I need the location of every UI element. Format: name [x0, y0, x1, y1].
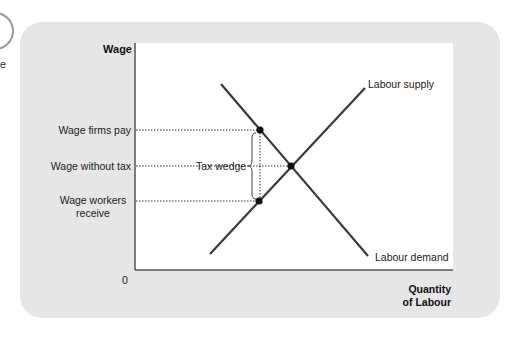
y-axis-label: Wage — [103, 43, 132, 56]
label-wage-firms-pay: Wage firms pay — [58, 124, 131, 137]
label-line-2: receive — [53, 207, 133, 220]
point-wage-firms-pay — [256, 126, 263, 133]
x-axis-label-line-1: Quantity — [403, 283, 451, 296]
point-wage-workers-receive — [255, 197, 262, 204]
x-axis-label-line-2: of Labour — [403, 296, 451, 309]
label-line-1: Wage workers — [53, 194, 133, 207]
x-axis-label: Quantity of Labour — [403, 283, 451, 309]
label-wage-without-tax: Wage without tax — [51, 160, 131, 173]
tax-wedge-brace — [248, 133, 256, 199]
label-wage-workers-receive: Wage workers receive — [53, 194, 133, 220]
point-equilibrium — [287, 162, 294, 169]
origin-label: 0 — [122, 274, 128, 287]
labour-supply-label: Labour supply — [368, 78, 434, 91]
tax-wedge-label: Tax wedge — [196, 160, 246, 173]
labour-demand-label: Labour demand — [375, 251, 449, 264]
